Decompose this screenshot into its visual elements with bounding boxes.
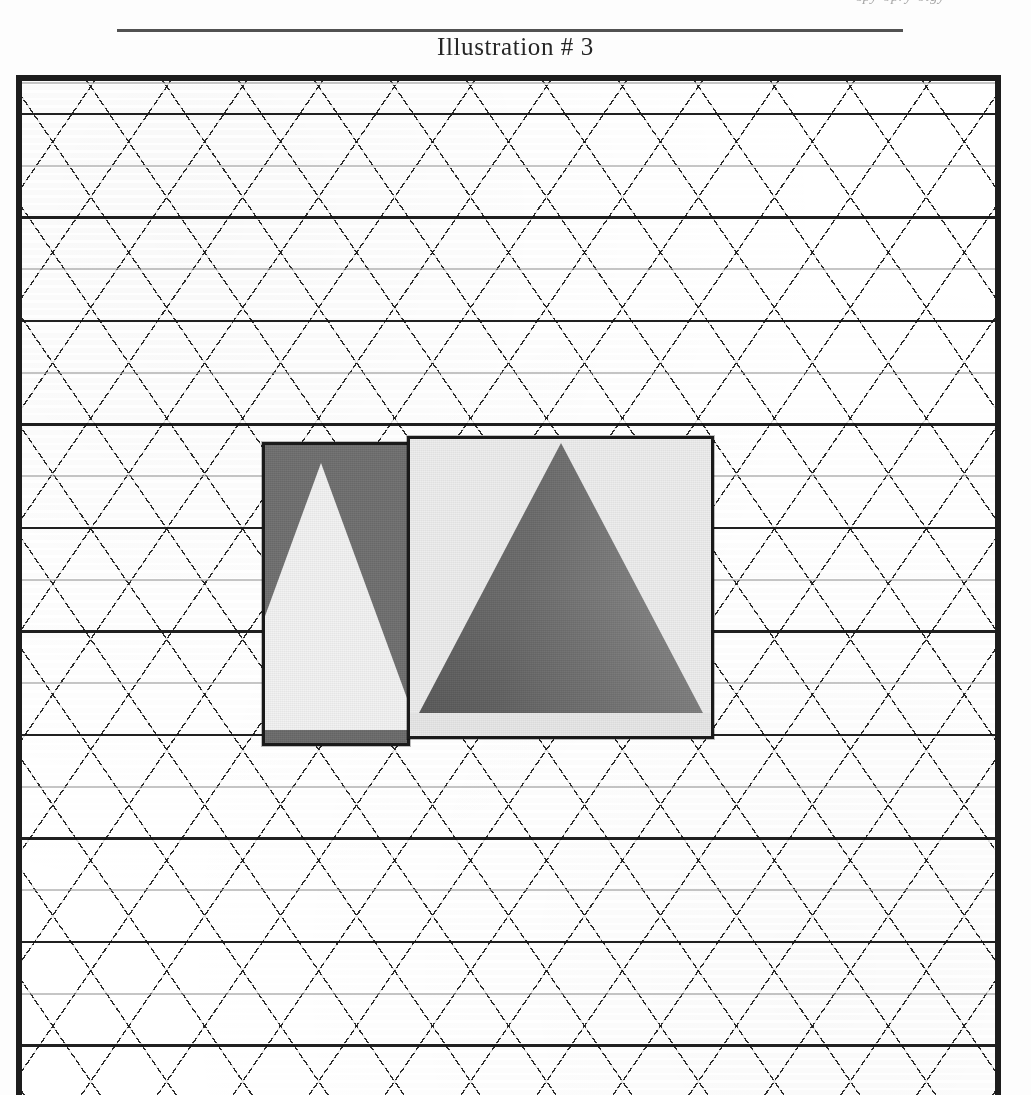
photo-grain-overlay: [410, 439, 711, 736]
photo-back-left: [262, 442, 410, 746]
caption-rule: [117, 29, 903, 32]
running-head-text: spy-opry-olgy: [0, 0, 1031, 6]
photo-front-right: [407, 436, 714, 739]
illustration-caption: Illustration # 3: [0, 33, 1031, 61]
framed-illustration-plate: [16, 75, 1001, 1095]
scanned-page: spy-opry-olgy Illustration # 3: [0, 0, 1031, 1095]
photo-grain-overlay: [265, 445, 407, 743]
